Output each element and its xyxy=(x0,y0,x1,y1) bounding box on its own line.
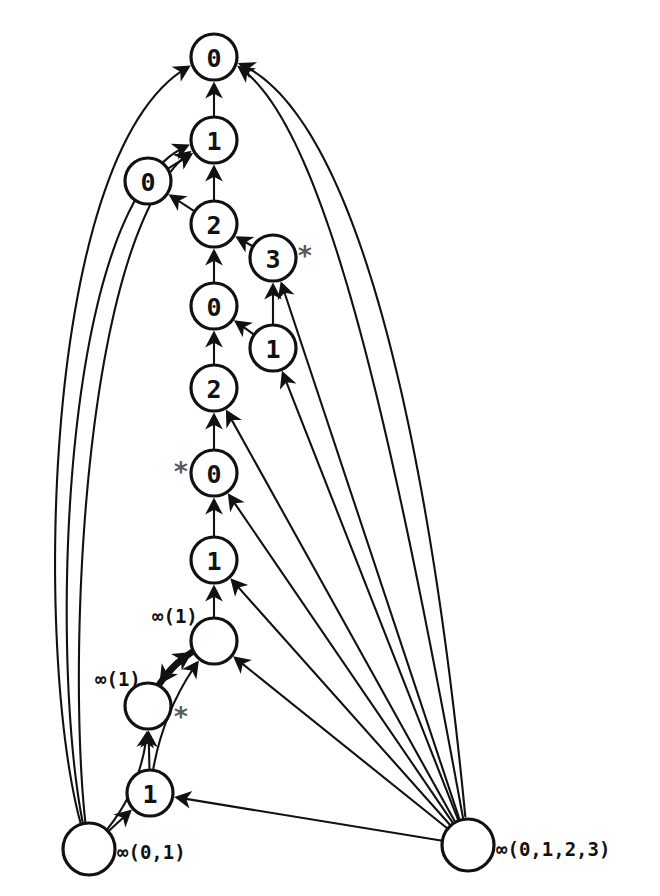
node-label-n2_a: 2 xyxy=(206,211,221,240)
edge-line xyxy=(185,799,441,841)
node-circle-ninf_bl[interactable] xyxy=(63,823,115,875)
node-ninf_up xyxy=(191,618,237,664)
node-n2_b: 2 xyxy=(191,365,237,411)
edge-ninf_br-to-ninf_up xyxy=(228,649,447,827)
edge-layer xyxy=(55,55,465,841)
edge-line xyxy=(243,326,253,333)
node-label-n0_side: 0 xyxy=(140,168,155,197)
edge-line xyxy=(286,381,458,820)
edge-ninf_up-to-n1_low xyxy=(205,585,223,617)
diagram-canvas: 01023012011 ***∞(1)∞(1)∞(0,1)∞(0,1,2,3) xyxy=(0,0,660,896)
node-n0_a: 0 xyxy=(191,283,237,329)
edge-ninf_br-to-n0_star xyxy=(221,488,453,822)
edge-line xyxy=(234,502,453,822)
node-label-n0_star: 0 xyxy=(206,460,221,489)
edge-ninf_br-to-n2_b xyxy=(218,405,454,821)
edge-n1_low-to-n0_star xyxy=(205,498,223,536)
edge-n2_b-to-n0_a xyxy=(205,331,223,364)
node-n1_mid: 1 xyxy=(250,325,296,371)
node-label-n0_a: 0 xyxy=(206,293,221,322)
edge-n1_mid-to-n3_star xyxy=(264,283,282,324)
node-n0_star: 0 xyxy=(191,450,237,496)
edge-n1_top-to-n0_top xyxy=(205,82,223,116)
node-label-n1_top: 1 xyxy=(206,127,221,156)
node-label-n1_low: 1 xyxy=(206,547,221,576)
edge-ninf_br-to-n0_top xyxy=(234,55,465,816)
node-label-n1_bot: 1 xyxy=(142,780,157,809)
edge-ninf_br-to-n0_top xyxy=(232,59,463,818)
edge-n2_a-to-n1_top xyxy=(205,165,223,200)
edge-n0_star-to-n2_b xyxy=(205,413,223,449)
edge-line xyxy=(177,200,193,210)
node-n1_top: 1 xyxy=(191,117,237,163)
node-ninf_bl xyxy=(63,823,115,875)
edge-ninf_br-to-n1_bot xyxy=(173,788,441,840)
edge-curve xyxy=(247,68,465,817)
node-circle-ninf_br[interactable] xyxy=(442,819,494,871)
edge-line xyxy=(231,419,455,821)
node-n2_a: 2 xyxy=(191,201,237,247)
node-n1_low: 1 xyxy=(191,537,237,583)
node-n3_star: 3 xyxy=(250,235,296,281)
node-n1_bot: 1 xyxy=(127,770,173,816)
star-mark-n3_star: * xyxy=(297,240,313,271)
set-label-ninf_star: ∞(1) xyxy=(95,668,141,690)
set-label-ninf_br: ∞(0,1,2,3) xyxy=(496,838,610,860)
star-mark-ninf_star: * xyxy=(173,701,189,732)
star-mark-n0_star: * xyxy=(173,456,189,487)
node-label-n3_star: 3 xyxy=(265,245,280,274)
node-label-n2_b: 2 xyxy=(206,375,221,404)
node-n0_side: 0 xyxy=(125,158,171,204)
graph-svg: 01023012011 ***∞(1)∞(1)∞(0,1)∞(0,1,2,3) xyxy=(0,0,660,896)
edge-n0_a-to-n2_a xyxy=(205,249,223,282)
set-label-ninf_bl: ∞(0,1) xyxy=(117,841,186,863)
node-n0_top: 0 xyxy=(191,34,237,80)
node-ninf_br xyxy=(442,819,494,871)
node-label-n1_mid: 1 xyxy=(265,335,280,364)
edge-ninf_br-to-n1_mid xyxy=(274,368,458,820)
set-label-ninf_up: ∞(1) xyxy=(152,605,198,627)
edge-arrowhead xyxy=(173,788,193,808)
edge-curve xyxy=(246,72,463,817)
node-circle-ninf_up[interactable] xyxy=(191,618,237,664)
node-label-n0_top: 0 xyxy=(206,44,221,73)
